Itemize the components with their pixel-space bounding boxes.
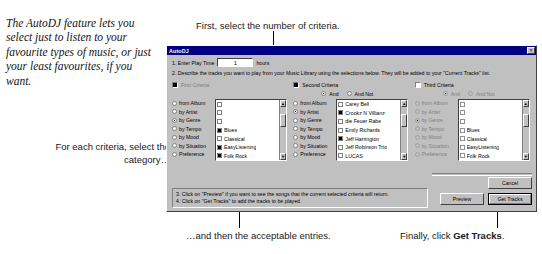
first-category-from-album[interactable]: from Album bbox=[172, 99, 212, 108]
scroll-down-icon[interactable]: ▼ bbox=[523, 153, 529, 160]
second-category-label-3: by Tempo bbox=[300, 126, 322, 132]
second-andnot-radio[interactable] bbox=[347, 91, 352, 96]
scrollbar-thumb[interactable] bbox=[523, 114, 529, 127]
first-listbox-scrollbar[interactable]: ▲ ▼ bbox=[279, 100, 286, 160]
play-time-input[interactable]: 1 bbox=[217, 58, 253, 67]
third-category-label-3: by Tempo bbox=[422, 126, 444, 132]
cancel-button[interactable]: Cancel bbox=[488, 177, 532, 189]
list-item[interactable]: Jeff Harrington bbox=[337, 134, 400, 143]
list-item[interactable] bbox=[459, 100, 522, 109]
third-criteria-conjunction-row: And And Not bbox=[415, 89, 532, 98]
scrollbar-thumb[interactable] bbox=[280, 114, 286, 127]
dialog-titlebar[interactable]: AutoDJ × bbox=[167, 46, 536, 55]
list-item[interactable] bbox=[216, 100, 279, 109]
scrollbar-track[interactable] bbox=[401, 127, 407, 153]
second-listbox-items: Carey Bell Crookz N Villianz die Feuer R… bbox=[337, 100, 400, 160]
list-item[interactable]: EasyListening bbox=[216, 143, 279, 152]
first-criteria-listbox[interactable]: Blues Classical EasyListening Folk Rock … bbox=[215, 99, 287, 161]
second-listbox-scrollbar[interactable]: ▲ ▼ bbox=[400, 100, 407, 160]
list-item[interactable]: Folk Rock bbox=[216, 152, 279, 161]
list-item[interactable]: Jeff Robinson Trio bbox=[337, 143, 400, 152]
first-category-label-0: from Album bbox=[179, 100, 205, 106]
first-category-preference[interactable]: Preference bbox=[172, 150, 212, 159]
third-category-from-album[interactable]: from Album bbox=[415, 99, 455, 108]
first-category-label-6: Preference bbox=[179, 151, 204, 157]
third-category-by-tempo[interactable]: by Tempo bbox=[415, 125, 455, 134]
list-item[interactable] bbox=[459, 109, 522, 118]
scrollbar-track[interactable] bbox=[280, 127, 286, 153]
scroll-down-icon[interactable]: ▼ bbox=[280, 153, 286, 160]
second-category-by-tempo[interactable]: by Tempo bbox=[293, 125, 333, 134]
second-criteria-conjunction-row: And And Not bbox=[293, 89, 410, 98]
list-item[interactable]: Classical bbox=[459, 134, 522, 143]
list-item[interactable] bbox=[216, 117, 279, 126]
second-category-from-album[interactable]: from Album bbox=[293, 99, 333, 108]
scroll-up-icon[interactable]: ▲ bbox=[523, 100, 529, 107]
third-category-preference[interactable]: Preference bbox=[415, 150, 455, 159]
first-category-by-situation[interactable]: by Situation bbox=[172, 142, 212, 151]
second-criteria-header[interactable]: Second Criteria bbox=[293, 80, 410, 89]
third-criteria-checkbox[interactable] bbox=[415, 82, 421, 88]
list-item[interactable]: Carey Bell bbox=[337, 100, 400, 109]
second-and-radio[interactable] bbox=[321, 91, 326, 96]
scroll-up-icon[interactable]: ▲ bbox=[280, 100, 286, 107]
list-item[interactable]: Blues bbox=[459, 126, 522, 135]
list-item[interactable]: EasyListening bbox=[459, 143, 522, 152]
second-category-label-5: by Situation bbox=[300, 143, 327, 149]
list-item[interactable]: None bbox=[216, 160, 279, 161]
first-list-label-5: EasyListening bbox=[224, 144, 256, 150]
preview-button[interactable]: Preview bbox=[440, 193, 484, 205]
third-category-label-4: by Mood bbox=[422, 134, 442, 140]
list-item[interactable]: die Feuer Rabe bbox=[337, 117, 400, 126]
scrollbar-thumb[interactable] bbox=[401, 114, 407, 127]
third-list-label-5: EasyListening bbox=[467, 144, 499, 150]
dialog-buttons: Cancel Preview Get Tracks bbox=[432, 177, 532, 207]
third-and-radio[interactable] bbox=[443, 91, 448, 96]
third-category-label-0: from Album bbox=[422, 100, 448, 106]
leader-line-finally bbox=[497, 212, 498, 228]
third-category-by-artist[interactable]: by Artist bbox=[415, 108, 455, 117]
second-category-label-2: by Genre bbox=[300, 117, 321, 123]
second-category-preference[interactable]: Preference bbox=[293, 150, 333, 159]
third-criteria-header[interactable]: Third Criteria bbox=[415, 80, 532, 89]
scroll-down-icon[interactable]: ▼ bbox=[401, 153, 407, 160]
second-criteria-listbox[interactable]: Carey Bell Crookz N Villianz die Feuer R… bbox=[336, 99, 408, 161]
second-category-by-artist[interactable]: by Artist bbox=[293, 108, 333, 117]
list-item[interactable] bbox=[216, 109, 279, 118]
third-category-by-genre[interactable]: by Genre bbox=[415, 116, 455, 125]
list-item[interactable]: Classical bbox=[216, 134, 279, 143]
third-category-by-mood[interactable]: by Mood bbox=[415, 133, 455, 142]
list-item[interactable] bbox=[459, 117, 522, 126]
describe-tracks-text: 2. Describe the tracks you want to play … bbox=[172, 70, 532, 76]
list-item[interactable]: Blues bbox=[216, 126, 279, 135]
dialog-body: 1. Enter Play Time 1 hours 2. Describe t… bbox=[167, 55, 536, 211]
third-category-label-5: by Situation bbox=[422, 143, 449, 149]
first-category-by-artist[interactable]: by Artist bbox=[172, 108, 212, 117]
third-andnot-radio[interactable] bbox=[468, 91, 473, 96]
second-criteria-checkbox[interactable] bbox=[293, 82, 299, 88]
second-category-by-mood[interactable]: by Mood bbox=[293, 133, 333, 142]
second-category-by-situation[interactable]: by Situation bbox=[293, 142, 333, 151]
second-category-label-0: from Album bbox=[300, 100, 326, 106]
scroll-up-icon[interactable]: ▲ bbox=[401, 100, 407, 107]
first-category-by-mood[interactable]: by Mood bbox=[172, 133, 212, 142]
third-listbox-scrollbar[interactable]: ▲ ▼ bbox=[522, 100, 529, 160]
list-item[interactable]: LUCAS bbox=[337, 152, 400, 161]
first-criteria-label: First Criteria bbox=[181, 82, 209, 88]
list-item[interactable]: Crookz N Villianz bbox=[337, 109, 400, 118]
second-category-by-genre[interactable]: by Genre bbox=[293, 116, 333, 125]
first-category-by-genre[interactable]: by Genre bbox=[172, 116, 212, 125]
first-criteria-checkbox[interactable] bbox=[172, 82, 178, 88]
first-category-by-tempo[interactable]: by Tempo bbox=[172, 125, 212, 134]
first-category-label-2: by Genre bbox=[179, 117, 200, 123]
third-category-by-situation[interactable]: by Situation bbox=[415, 142, 455, 151]
list-item[interactable]: Moxy Früvous bbox=[337, 160, 400, 161]
get-tracks-button[interactable]: Get Tracks bbox=[488, 193, 532, 205]
first-criteria-header[interactable]: First Criteria bbox=[172, 80, 289, 89]
close-icon[interactable]: × bbox=[527, 47, 535, 54]
third-criteria-listbox[interactable]: Blues Classical EasyListening Folk Rock … bbox=[458, 99, 530, 161]
scrollbar-track[interactable] bbox=[523, 127, 529, 153]
list-item[interactable]: Noise bbox=[459, 160, 522, 161]
list-item[interactable]: Folk Rock bbox=[459, 152, 522, 161]
list-item[interactable]: Emily Richards bbox=[337, 126, 400, 135]
